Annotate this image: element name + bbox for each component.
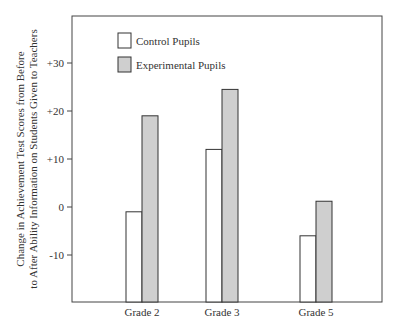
x-tick-label: Grade 3 (204, 306, 240, 318)
bar-control-grade-2 (126, 212, 142, 302)
y-tick-label: +20 (47, 105, 65, 117)
x-tick-label: Grade 2 (124, 306, 159, 318)
bar-experimental-grade-2 (142, 116, 158, 302)
legend-swatch-control (118, 33, 131, 48)
y-tick-label: +10 (47, 153, 65, 165)
bar-control-grade-5 (300, 236, 316, 302)
bar-chart: +30+20+100-10 Grade 2Grade 3Grade 5 Chan… (0, 0, 397, 331)
bar-experimental-grade-5 (316, 201, 332, 302)
bar-experimental-grade-3 (222, 89, 238, 302)
y-axis-label-line-1: Change in Achievement Test Scores from B… (14, 51, 26, 266)
x-tick-label: Grade 5 (298, 306, 334, 318)
y-tick-label: -10 (49, 249, 64, 261)
bar-control-grade-3 (206, 149, 222, 302)
legend-swatch-experimental (118, 57, 131, 72)
y-axis-label-line-2: to After Ability Information on Students… (27, 29, 39, 288)
legend: Control Pupils Experimental Pupils (118, 33, 226, 72)
y-tick-label: +30 (47, 57, 65, 69)
y-tick-label: 0 (59, 201, 65, 213)
legend-label-experimental: Experimental Pupils (136, 59, 226, 71)
legend-label-control: Control Pupils (136, 35, 200, 47)
